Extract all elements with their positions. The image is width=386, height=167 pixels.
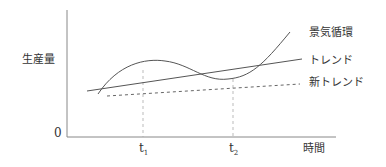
legend-new-trend: 新トレンド xyxy=(309,77,364,88)
tick-t2: t2 xyxy=(229,142,238,157)
legend-cycle: 景気循環 xyxy=(309,27,353,38)
new-trend-line xyxy=(107,84,300,96)
legend-trend: トレンド xyxy=(309,55,353,66)
origin-label: 0 xyxy=(54,127,62,139)
y-axis-label: 生産量 xyxy=(22,54,55,65)
x-axis-label: 時間 xyxy=(303,143,325,154)
tick-t1: t1 xyxy=(139,142,148,157)
